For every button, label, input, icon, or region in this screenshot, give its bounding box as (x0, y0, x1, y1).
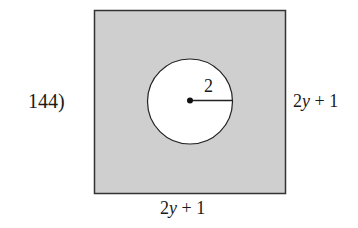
bottom-side-label: 2y + 1 (160, 198, 205, 219)
bottom-rest: + 1 (177, 198, 205, 218)
center-point (187, 98, 193, 104)
right-var: y (302, 91, 310, 111)
right-side-label: 2y + 1 (293, 91, 338, 112)
bottom-var: y (169, 198, 177, 218)
right-coef: 2 (293, 91, 302, 111)
bottom-coef: 2 (160, 198, 169, 218)
right-rest: + 1 (310, 91, 338, 111)
radius-label: 2 (204, 76, 213, 97)
geometry-figure (0, 0, 358, 228)
